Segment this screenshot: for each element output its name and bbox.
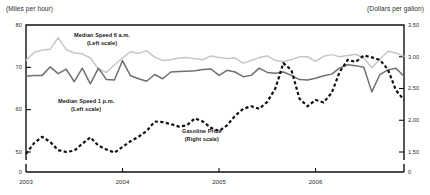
annotation-gasoline-price: Gasoline Price (Right scale) <box>182 128 222 143</box>
right-tick-label-1.50: 1.50 <box>408 149 430 155</box>
series-line-median-speed-1-p-m <box>26 61 404 92</box>
right-tick-label-0: 0 <box>408 169 430 175</box>
x-tick-label-2004: 2004 <box>108 179 138 185</box>
left-tick-label-50: 50 <box>6 149 22 155</box>
annotation-6am-line2: (Left scale) <box>74 40 130 48</box>
annotation-median-speed-1pm: Median Speed 1 p.m. (Left scale) <box>58 98 114 113</box>
annotation-6am-line1: Median Speed 6 a.m. <box>74 32 130 40</box>
annotation-1pm-line2: (Left scale) <box>58 106 114 114</box>
annotation-gas-line1: Gasoline Price <box>182 128 222 136</box>
x-tick-label-2005: 2005 <box>204 179 234 185</box>
left-tick-label-80: 80 <box>6 22 22 28</box>
annotation-gas-line2: (Right scale) <box>182 136 222 144</box>
right-tick-label-2.50: 2.50 <box>408 85 430 91</box>
left-tick-label-60: 60 <box>6 106 22 112</box>
left-tick-label-0: 0 <box>6 169 22 175</box>
right-tick-label-3.00: 3.00 <box>408 54 430 60</box>
x-tick-label-2006: 2006 <box>301 179 331 185</box>
left-tick-label-70: 70 <box>6 64 22 70</box>
right-tick-label-3.50: 3.50 <box>408 22 430 28</box>
chart-figure: (Miles per hour) (Dollars per gallon) 80… <box>0 0 430 195</box>
right-tick-label-2.00: 2.00 <box>408 117 430 123</box>
annotation-1pm-line1: Median Speed 1 p.m. <box>58 98 114 106</box>
x-tick-label-2003: 2003 <box>11 179 41 185</box>
annotation-median-speed-6am: Median Speed 6 a.m. (Left scale) <box>74 32 130 47</box>
